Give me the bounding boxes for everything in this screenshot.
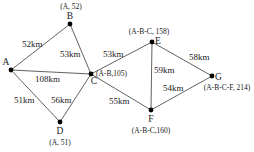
edge-label-b-c: 53km bbox=[60, 49, 81, 59]
edge-label-e-f: 59km bbox=[154, 65, 175, 75]
edge-label-d-c: 56km bbox=[51, 95, 72, 105]
node-d bbox=[58, 120, 63, 125]
edge-f-g bbox=[151, 76, 212, 110]
edge-label-c-e: 53km bbox=[103, 49, 124, 59]
annotation-g: (A-B-C-F, 214) bbox=[204, 83, 251, 92]
node-f bbox=[149, 108, 154, 113]
graph-diagram: A B C D E F G (A, 52) (A-B,105) (A, 51) … bbox=[0, 0, 254, 152]
node-label-a: A bbox=[3, 57, 10, 67]
node-label-g: G bbox=[215, 72, 222, 82]
edge-label-f-g: 54km bbox=[163, 83, 184, 93]
edge-label-e-g: 58km bbox=[189, 52, 210, 62]
node-g bbox=[210, 74, 215, 79]
annotation-e: (A-B-C, 158) bbox=[129, 27, 170, 36]
edge-label-c-f: 55km bbox=[109, 96, 130, 106]
annotation-d: (A, 51) bbox=[49, 138, 71, 147]
node-b bbox=[68, 22, 73, 27]
node-label-b: B bbox=[67, 11, 73, 21]
annotation-c: (A-B,105) bbox=[96, 69, 128, 78]
edge-label-a-c: 108km bbox=[35, 74, 60, 84]
node-label-f: F bbox=[148, 114, 153, 124]
edge-e-f bbox=[151, 42, 152, 110]
annotation-b: (A, 52) bbox=[60, 2, 82, 11]
node-a bbox=[9, 68, 14, 73]
edge-label-a-d: 51km bbox=[14, 95, 35, 105]
annotation-f: (A-B-C,160) bbox=[132, 126, 171, 135]
edge-label-a-b: 52km bbox=[22, 39, 43, 49]
node-label-d: D bbox=[57, 126, 64, 136]
node-label-e: E bbox=[155, 36, 161, 46]
node-e bbox=[150, 40, 155, 45]
